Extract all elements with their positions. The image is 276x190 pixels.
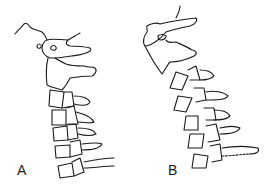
panel-label-a: A [17, 163, 26, 177]
panel-a-drawing [15, 23, 114, 178]
spine-diagram [0, 0, 276, 190]
panel-b-drawing [144, 6, 259, 168]
panel-label-b: B [168, 163, 177, 177]
